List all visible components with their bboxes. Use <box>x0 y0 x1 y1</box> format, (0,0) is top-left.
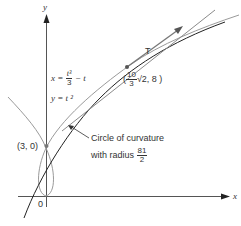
tp-denominator: 3 <box>126 80 137 88</box>
radius-denominator: 2 <box>137 156 148 164</box>
y-equation: y = t ² <box>51 94 73 103</box>
tangent-label: T <box>145 47 151 56</box>
x-eq-tail: − t <box>75 73 86 83</box>
circle-of-curvature-arc <box>24 22 225 218</box>
circle-label-line1: Circle of curvature <box>91 134 164 143</box>
x-axis-label: x <box>233 192 237 201</box>
tp-sqrt: √2, 8 ) <box>137 74 162 84</box>
y-axis-arrow-icon <box>44 14 50 23</box>
tangent-arrow-icon <box>174 26 183 34</box>
x-equation: x = t³ 3 − t <box>51 70 86 87</box>
circle-label-leader <box>70 126 89 138</box>
tangent-point-label: ( 10 3 √2, 8 ) <box>123 71 162 88</box>
radius-fraction: 81 2 <box>137 147 148 164</box>
circle-radius-text: with radius <box>91 150 134 160</box>
x-eq-lhs: x = <box>51 73 63 83</box>
x-eq-denominator: 3 <box>66 79 73 87</box>
intercept-point-dot <box>45 144 49 148</box>
tp-fraction: 10 3 <box>126 71 137 88</box>
diagram-canvas <box>0 0 241 226</box>
intercept-label: (3, 0) <box>17 142 38 151</box>
x-axis-arrow-icon <box>221 194 230 200</box>
tangent-vector <box>127 30 178 67</box>
origin-label: 0 <box>38 200 43 209</box>
tangent-point-dot <box>125 65 129 69</box>
y-axis-label: y <box>43 3 47 12</box>
circle-label-line2: with radius 81 2 <box>91 147 147 164</box>
x-eq-fraction: t³ 3 <box>66 70 73 87</box>
parametric-curve <box>8 15 239 196</box>
